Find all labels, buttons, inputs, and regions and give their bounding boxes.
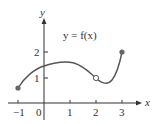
open-point-hole (93, 75, 98, 80)
x-axis: x −1 0 1 2 3 (8, 96, 150, 118)
y-axis-arrow-icon (42, 18, 47, 24)
x-tick-1: 1 (67, 106, 73, 118)
function-graph: x −1 0 1 2 3 y 1 2 y = f(x) (0, 0, 153, 124)
x-tick-3: 3 (119, 106, 125, 118)
x-tick-neg1: −1 (13, 106, 25, 118)
x-axis-label: x (144, 96, 150, 108)
x-tick-0: 0 (36, 106, 42, 118)
closed-endpoint-left (15, 85, 20, 90)
graph-svg: x −1 0 1 2 3 y 1 2 y = f(x) (0, 0, 153, 124)
y-tick-1: 1 (34, 72, 40, 84)
y-axis-label: y (39, 6, 45, 18)
y-tick-2: 2 (34, 46, 40, 58)
closed-endpoint-right (119, 49, 124, 54)
x-axis-arrow-icon (136, 101, 142, 106)
function-label: y = f(x) (63, 29, 97, 42)
x-tick-2: 2 (93, 106, 99, 118)
